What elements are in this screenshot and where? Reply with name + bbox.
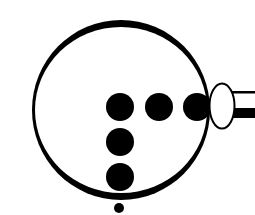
dot-down-1 <box>106 128 134 156</box>
dot-center <box>106 93 134 121</box>
oval-attachment <box>210 84 235 129</box>
dot-right-1 <box>145 93 173 121</box>
small-dot <box>114 203 124 213</box>
dot-down-2 <box>106 163 134 191</box>
dot-right-2 <box>183 93 211 121</box>
diagram-canvas <box>0 0 255 215</box>
